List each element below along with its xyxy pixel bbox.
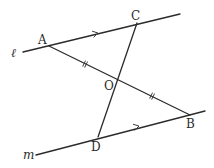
point-o-label: O — [104, 79, 114, 93]
parallel-arrow-icon-l — [92, 30, 98, 37]
line-m — [36, 111, 205, 155]
point-c-label: C — [131, 9, 140, 23]
geometry-diagram: ℓ m A C O D B — [0, 0, 214, 168]
line-m-label: m — [23, 148, 34, 162]
point-b-label: B — [186, 117, 195, 131]
point-d-label: D — [91, 140, 101, 154]
point-a-label: A — [37, 33, 47, 47]
line-l-label: ℓ — [11, 46, 16, 60]
segment-ab — [49, 46, 190, 115]
